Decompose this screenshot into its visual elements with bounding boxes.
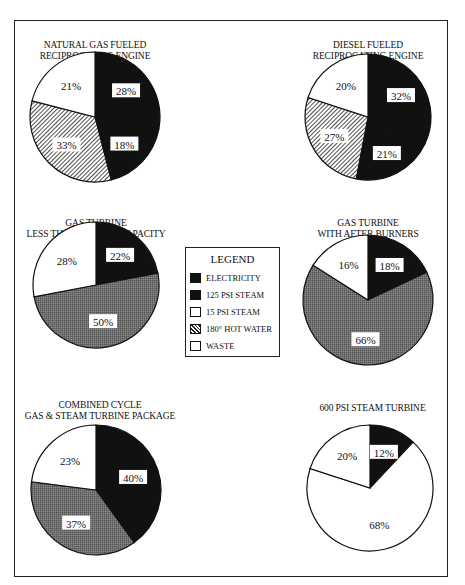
slice-label: 50% (93, 316, 113, 328)
slice-label: 28% (57, 255, 77, 267)
legend-item-125-psi-steam: 125 PSI STEAM (186, 286, 279, 303)
slice-label: 20% (337, 450, 357, 462)
slice-label: 37% (66, 518, 86, 530)
swatch-white-icon (190, 307, 201, 317)
slice-label: 18% (380, 260, 400, 272)
swatch-hatch-icon (190, 324, 201, 334)
pie-chart-5: 40%37%23% (31, 425, 161, 555)
slice-label: 21% (61, 80, 81, 92)
slice-label: 33% (56, 139, 76, 151)
slice-label: 21% (377, 148, 397, 160)
pie-chart-3: 22%50%28% (33, 222, 159, 348)
slice-label: 16% (338, 259, 358, 271)
legend: LEGEND ELECTRICITY 125 PSI STEAM 15 PSI … (185, 247, 280, 357)
legend-title: LEGEND (186, 253, 279, 265)
swatch-solid-black-icon (190, 290, 201, 300)
swatch-white-icon (190, 341, 201, 351)
slice-label: 23% (60, 455, 80, 467)
legend-item-15-psi-steam: 15 PSI STEAM (186, 303, 279, 320)
swatch-solid-black-icon (190, 273, 201, 283)
slice-label: 68% (369, 519, 389, 531)
slice-label: 18% (114, 139, 134, 151)
slice-label: 22% (110, 250, 130, 262)
slice-label: 28% (116, 85, 136, 97)
pie-chart-1: 28%18%33%21% (30, 52, 160, 182)
slice-label: 27% (324, 131, 344, 143)
slice-label: 12% (374, 447, 394, 459)
pie-chart-4: 18%66%16% (303, 235, 433, 365)
slice-label: 20% (336, 80, 356, 92)
slice-label: 32% (391, 90, 411, 102)
pie-chart-6: 12%68%20% (307, 425, 433, 551)
slice-label: 66% (355, 334, 375, 346)
slice-label: 40% (123, 472, 143, 484)
legend-item-electricity: ELECTRICITY (186, 269, 279, 286)
legend-item-waste: WASTE (186, 337, 279, 354)
legend-item-hot-water: 180° HOT WATER (186, 320, 279, 337)
pie-chart-2: 32%21%27%20% (305, 54, 431, 180)
